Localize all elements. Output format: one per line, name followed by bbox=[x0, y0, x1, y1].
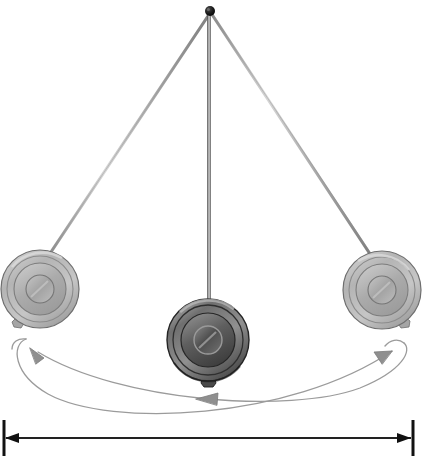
arrowhead-right-end bbox=[374, 351, 392, 364]
pendulum-figure bbox=[0, 0, 425, 456]
rod-center bbox=[207, 11, 211, 312]
bob-center bbox=[167, 299, 249, 387]
arrowhead-left-end bbox=[30, 348, 44, 364]
dimension-arrow-right bbox=[397, 433, 411, 443]
bob-left bbox=[1, 250, 79, 328]
rod-group bbox=[47, 11, 374, 312]
amplitude-dimension-line bbox=[4, 420, 413, 456]
rod-right-edge bbox=[211, 13, 374, 258]
swing-arc-inner-cap bbox=[385, 340, 404, 346]
pendulum-canvas bbox=[0, 0, 425, 456]
arrowhead-mid-left bbox=[196, 393, 218, 405]
pivot-point bbox=[205, 6, 215, 16]
rod-left-edge bbox=[47, 13, 210, 258]
dimension-arrow-left bbox=[5, 433, 19, 443]
bob-right bbox=[343, 251, 421, 329]
